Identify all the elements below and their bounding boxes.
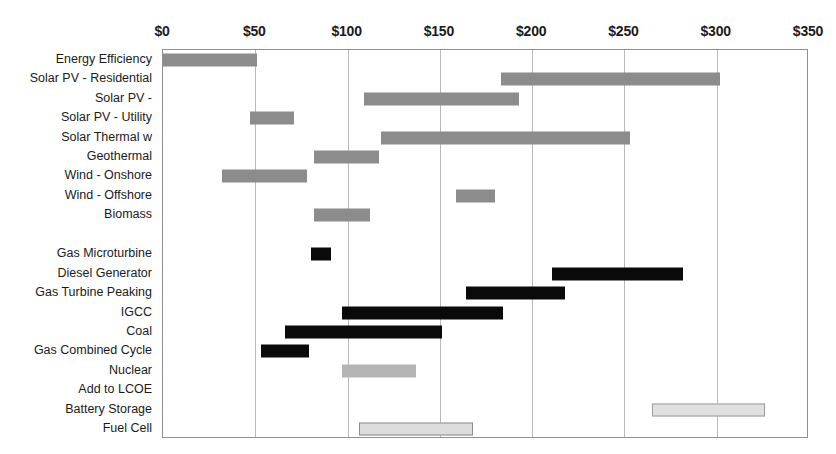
gridline [624,50,625,437]
range-bar [652,403,765,416]
category-label: Biomass [104,207,152,221]
category-label: Solar Thermal w [61,130,152,144]
category-label: Add to LCOE [78,382,152,396]
range-bar [261,345,309,358]
range-bar [359,423,473,436]
range-bar [285,326,442,339]
range-bar [342,364,416,377]
gridline [348,50,349,437]
plot-area [162,49,808,438]
y-axis-category-labels: Energy EfficiencySolar PV - ResidentialS… [0,49,156,438]
category-label: Geothermal [87,149,152,163]
range-bar [314,150,379,163]
category-label: Coal [126,324,152,338]
range-bar [222,170,307,183]
category-label: Gas Turbine Peaking [35,285,152,299]
levelized-cost-range-chart: $0$50$100$150$200$250$300$350 Energy Eff… [0,0,836,454]
category-label: Wind - Offshore [65,188,152,202]
category-label: Solar PV - Residential [30,71,152,85]
range-bar [466,287,566,300]
category-label: Energy Efficiency [56,52,152,66]
x-tick-label: $350 [793,23,823,39]
x-tick-label: $200 [516,23,546,39]
category-label: Fuel Cell [103,421,152,435]
category-label: Solar PV - [95,91,152,105]
x-tick-label: $150 [424,23,454,39]
range-bar [314,209,369,222]
category-label: IGCC [121,305,152,319]
gridline [717,50,718,437]
gridline [532,50,533,437]
gridline [255,50,256,437]
category-label: Gas Microturbine [57,246,152,260]
category-label: Diesel Generator [58,266,153,280]
x-tick-label: $300 [701,23,731,39]
category-label: Wind - Onshore [64,168,152,182]
category-label: Nuclear [109,363,152,377]
x-tick-label: $100 [331,23,361,39]
range-bar [552,267,683,280]
range-bar [456,189,495,202]
range-bar [250,112,294,125]
x-tick-label: $50 [243,23,266,39]
category-label: Gas Combined Cycle [34,343,152,357]
gridline [440,50,441,437]
range-bar [163,53,257,66]
x-tick-label: $0 [154,23,169,39]
x-tick-label: $250 [608,23,638,39]
range-bar [381,131,630,144]
range-bar [311,248,331,261]
range-bar [364,92,519,105]
range-bar [501,73,721,86]
category-label: Solar PV - Utility [61,110,152,124]
category-label: Battery Storage [65,402,152,416]
range-bar [342,306,503,319]
